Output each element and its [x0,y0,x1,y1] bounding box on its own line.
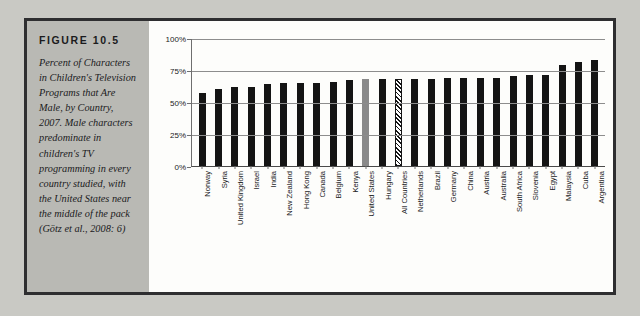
x-tick-mark [267,166,268,169]
x-label-slot: South Africa [505,171,521,257]
x-tick-mark [283,166,284,169]
x-tick-mark [431,166,432,169]
x-label-slot: Brazil [423,171,439,257]
bar-netherlands [411,79,418,166]
x-label-slot: Germany [439,171,455,257]
bar-all-countries [395,79,402,166]
plot-wrapper: 100%75%50%25%0% NorwaySyriaUnited Kingdo… [157,39,607,286]
x-tick-mark [251,166,252,169]
bar-new-zealand [280,83,287,166]
x-tick-mark [316,166,317,169]
chart-panel: 100%75%50%25%0% NorwaySyriaUnited Kingdo… [149,21,613,292]
bar-malaysia [559,65,566,166]
figure-container: FIGURE 10.5 Percent of Characters in Chi… [24,18,616,295]
bar-united-kingdom [231,87,238,166]
x-label-slot: Hungary [373,171,389,257]
x-label-slot: Malaysia [554,171,570,257]
x-tick-mark [365,166,366,169]
x-label-slot: Argentina [587,171,603,257]
x-label-slot: Kenya [341,171,357,257]
x-tick-mark [496,166,497,169]
x-label-slot: Israel [242,171,258,257]
x-tick-mark [545,166,546,169]
y-tick-label: 100% [166,35,186,44]
bar-slovenia [526,75,533,166]
x-label-slot: Cuba [570,171,586,257]
x-tick-mark [513,166,514,169]
bar-germany [444,78,451,166]
x-tick-mark [578,166,579,169]
x-tick-mark [414,166,415,169]
gridline [192,135,605,136]
x-label-slot: United Kingdom [226,171,242,257]
x-label-slot: Egypt [538,171,554,257]
x-tick-mark [463,166,464,169]
bar-hungary [379,79,386,166]
bar-kenya [346,80,353,166]
y-tick-label: 50% [170,99,186,108]
figure-screenshot: FIGURE 10.5 Percent of Characters in Chi… [0,0,640,316]
y-tick-mark [187,167,191,168]
bar-argentina [591,60,598,166]
x-tick-mark [218,166,219,169]
x-label-slot: Hong Kong [291,171,307,257]
figure-caption-text: Percent of Characters in Children's Tele… [39,55,139,236]
x-label-slot: India [259,171,275,257]
x-label-slot: Belgium [324,171,340,257]
y-tick-label: 0% [174,163,186,172]
x-tick-mark [382,166,383,169]
x-label-slot: Slovenia [521,171,537,257]
plot-area [191,39,605,167]
x-tick-label-argentina: Argentina [598,171,606,204]
bar-hong-kong [297,83,304,166]
gridline [192,103,605,104]
x-label-slot: China [456,171,472,257]
bar-canada [313,83,320,166]
x-tick-mark [234,166,235,169]
bar-cuba [575,62,582,166]
y-axis: 100%75%50%25%0% [157,39,191,167]
gridline [192,39,605,40]
x-label-slot: Australia [488,171,504,257]
bar-china [460,78,467,166]
x-label-slot: Canada [308,171,324,257]
x-tick-mark [447,166,448,169]
x-tick-mark [202,166,203,169]
bar-egypt [542,75,549,166]
x-label-slot: Netherlands [406,171,422,257]
bar-austria [477,78,484,166]
bar-israel [248,87,255,166]
x-label-slot: Norway [193,171,209,257]
figure-number-label: FIGURE 10.5 [39,34,139,46]
bar-belgium [330,82,337,166]
x-label-slot: Austria [472,171,488,257]
figure-caption-panel: FIGURE 10.5 Percent of Characters in Chi… [27,21,149,292]
x-tick-mark [349,166,350,169]
bar-south-africa [510,76,517,166]
x-tick-mark [594,166,595,169]
x-label-slot: Syria [209,171,225,257]
bar-australia [493,78,500,166]
bar-brazil [428,79,435,166]
bar-united-states [362,79,369,166]
x-label-slot: New Zealand [275,171,291,257]
bar-syria [215,89,222,166]
x-tick-mark [529,166,530,169]
x-tick-mark [480,166,481,169]
bar-india [264,84,271,166]
x-axis-labels: NorwaySyriaUnited KingdomIsraelIndiaNew … [191,171,605,257]
y-tick-label: 25% [170,131,186,140]
y-tick-label: 75% [170,67,186,76]
x-label-slot: All Countries [390,171,406,257]
gridline [192,71,605,72]
x-label-slot: United States [357,171,373,257]
x-tick-mark [398,166,399,169]
x-tick-mark [300,166,301,169]
x-tick-mark [333,166,334,169]
x-tick-mark [562,166,563,169]
